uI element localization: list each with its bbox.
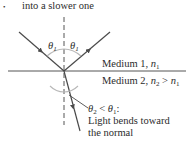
theta2-arc-right <box>64 86 78 92</box>
incident-ray <box>19 32 64 71</box>
refraction-note-line3: the normal <box>88 127 133 139</box>
medium1-label: Medium 1, n1 <box>102 58 159 70</box>
theta2-arc-left <box>50 86 64 92</box>
medium2-label: Medium 2, n2 > n1 <box>102 75 179 87</box>
theta1-incident-label: θ1 <box>48 40 57 52</box>
refraction-note-condition: θ2 < θ1: <box>88 103 119 115</box>
refraction-note-line2: Light bends toward <box>88 115 170 127</box>
theta1-reflected-label: θ1 <box>70 40 79 52</box>
